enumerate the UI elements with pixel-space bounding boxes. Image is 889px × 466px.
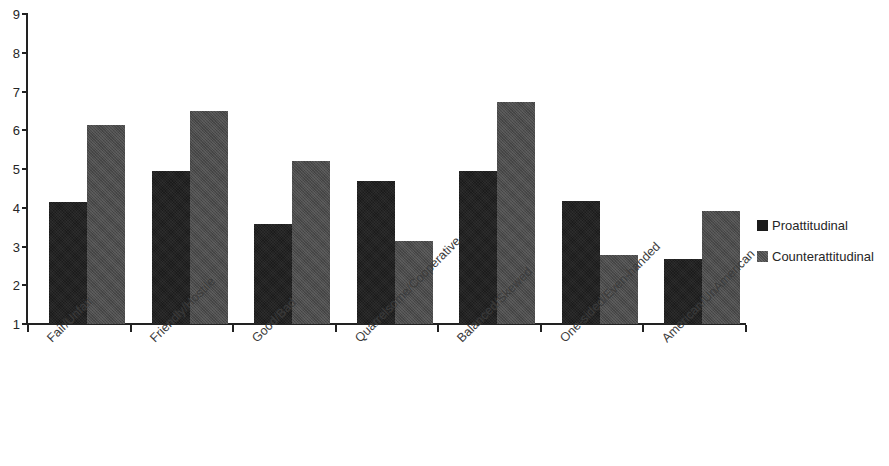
x-axis-tick-mark [540, 325, 542, 332]
x-axis-tick-mark [335, 325, 337, 332]
legend-item: Counterattitudinal [757, 245, 887, 267]
y-axis-tick-mark [22, 207, 27, 209]
x-axis-tick-mark [27, 325, 29, 332]
x-axis-tick-mark [130, 325, 132, 332]
legend-swatch-icon [757, 251, 768, 262]
y-axis-tick-mark [22, 91, 27, 93]
y-axis-tick-mark [22, 168, 27, 170]
x-axis-tick-mark [232, 325, 234, 332]
y-axis-tick-label: 7 [13, 85, 20, 98]
y-axis-tick-label: 5 [13, 163, 20, 176]
x-axis-tick-mark [437, 325, 439, 332]
y-axis-tick-label: 9 [13, 8, 20, 21]
plot-area: 123456789 [27, 14, 745, 324]
x-axis-tick-mark [642, 325, 644, 332]
legend-swatch-icon [757, 220, 768, 231]
y-axis-tick-label: 4 [13, 201, 20, 214]
y-axis-tick-label: 6 [13, 124, 20, 137]
y-axis-tick-mark [22, 246, 27, 248]
y-axis-tick-mark [22, 52, 27, 54]
bar-chart: 123456789 ProattitudinalCounterattitudin… [0, 0, 889, 466]
bar-counterattitudinal [87, 125, 125, 324]
y-axis-tick-mark [22, 13, 27, 15]
y-axis-tick-label: 8 [13, 46, 20, 59]
y-axis-tick-mark [22, 284, 27, 286]
y-axis-tick-label: 3 [13, 240, 20, 253]
legend-label: Counterattitudinal [772, 250, 874, 263]
x-axis-tick-mark [745, 325, 747, 332]
y-axis-tick-label: 2 [13, 279, 20, 292]
bar-counterattitudinal [292, 161, 330, 324]
y-axis-tick-mark [22, 129, 27, 131]
legend-item: Proattitudinal [757, 214, 887, 236]
legend-label: Proattitudinal [772, 219, 848, 232]
y-axis-tick-label: 1 [13, 318, 20, 331]
chart-legend: ProattitudinalCounterattitudinal [757, 214, 887, 276]
